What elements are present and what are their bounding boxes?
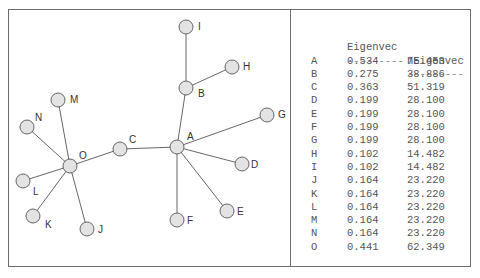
row-node: M (311, 214, 317, 227)
node-label-I: I (198, 21, 201, 32)
node-D (235, 157, 249, 171)
row-node: E (311, 108, 317, 121)
row-eigenvec: 0.199 (347, 134, 379, 147)
row-node: C (311, 81, 317, 94)
node-label-K: K (45, 219, 52, 230)
row-eigenvec: 0.441 (347, 241, 379, 254)
row-neigenvec: 28.100 (407, 108, 445, 121)
panel-divider (290, 9, 291, 267)
node-label-N: N (35, 112, 42, 123)
row-node: N (311, 227, 317, 240)
node-A (170, 140, 184, 154)
table-row: F0.19928.100 (300, 121, 325, 134)
row-neigenvec: 62.349 (407, 241, 445, 254)
node-F (170, 213, 184, 227)
edge-A-D (177, 147, 242, 164)
table-row: L0.16423.220 (300, 201, 325, 214)
node-I (179, 20, 193, 34)
node-label-L: L (33, 186, 39, 197)
row-neigenvec: 23.220 (407, 174, 445, 187)
row-neigenvec: 28.100 (407, 121, 445, 134)
row-node: F (311, 121, 317, 134)
edge-O-J (70, 166, 87, 229)
row-node: J (311, 174, 317, 187)
node-label-D: D (251, 159, 258, 170)
network-graph: ABCDEFGHIJKLMNO (0, 0, 290, 278)
table-row: C0.36351.319 (300, 81, 325, 94)
row-eigenvec: 0.164 (347, 227, 379, 240)
table-body: A0.53475.453B0.27538.886C0.36351.319D0.1… (300, 55, 325, 254)
row-neigenvec: 28.100 (407, 94, 445, 107)
table-row: O0.44162.349 (300, 241, 325, 254)
node-label-E: E (237, 206, 244, 217)
table-row: I0.10214.482 (300, 161, 325, 174)
node-label-F: F (187, 215, 193, 226)
row-node: H (311, 148, 317, 161)
table-row: J0.16423.220 (300, 174, 325, 187)
node-label-M: M (70, 94, 78, 105)
node-B (179, 81, 193, 95)
row-eigenvec: 0.363 (347, 81, 379, 94)
row-neigenvec: 23.220 (407, 227, 445, 240)
edge-C-O (70, 149, 120, 166)
edge-B-H (186, 67, 232, 88)
edge-A-B (177, 88, 186, 147)
row-eigenvec: 0.102 (347, 161, 379, 174)
table-row: H0.10214.482 (300, 148, 325, 161)
node-label-J: J (98, 224, 103, 235)
table-row: E0.19928.100 (300, 108, 325, 121)
eigenvector-table: Eigenvec nEigenvec --------- --------- A… (300, 28, 325, 254)
row-neigenvec: 23.220 (407, 201, 445, 214)
node-label-B: B (198, 88, 205, 99)
table-row: K0.16423.220 (300, 188, 325, 201)
node-K (26, 209, 40, 223)
row-eigenvec: 0.164 (347, 201, 379, 214)
row-neigenvec: 23.220 (407, 188, 445, 201)
row-eigenvec: 0.199 (347, 108, 379, 121)
edge-A-C (120, 147, 177, 149)
row-node: A (311, 55, 317, 68)
row-node: G (311, 134, 317, 147)
node-label-G: G (278, 109, 286, 120)
row-eigenvec: 0.164 (347, 188, 379, 201)
row-eigenvec: 0.199 (347, 121, 379, 134)
table-row: G0.19928.100 (300, 134, 325, 147)
row-node: D (311, 94, 317, 107)
node-label-H: H (243, 61, 250, 72)
row-node: O (311, 241, 317, 254)
node-N (20, 120, 34, 134)
row-neigenvec: 14.482 (407, 161, 445, 174)
row-eigenvec: 0.534 (347, 55, 379, 68)
row-neigenvec: 23.220 (407, 214, 445, 227)
edge-A-E (177, 147, 227, 211)
row-neigenvec: 28.100 (407, 134, 445, 147)
node-E (220, 204, 234, 218)
node-G (260, 108, 274, 122)
row-eigenvec: 0.275 (347, 68, 379, 81)
node-label-O: O (79, 150, 87, 161)
node-O (63, 159, 77, 173)
row-eigenvec: 0.199 (347, 94, 379, 107)
row-neigenvec: 14.482 (407, 148, 445, 161)
table-row: D0.19928.100 (300, 94, 325, 107)
table-row: B0.27538.886 (300, 68, 325, 81)
row-eigenvec: 0.164 (347, 174, 379, 187)
table-row: N0.16423.220 (300, 227, 325, 240)
table-row: M0.16423.220 (300, 214, 325, 227)
header-eigenvec: Eigenvec (347, 41, 397, 54)
node-label-C: C (129, 134, 136, 145)
edge-O-M (58, 100, 70, 166)
row-neigenvec: 75.453 (407, 55, 445, 68)
node-label-A: A (187, 131, 194, 142)
row-neigenvec: 38.886 (407, 68, 445, 81)
row-node: I (311, 161, 317, 174)
row-eigenvec: 0.164 (347, 214, 379, 227)
row-eigenvec: 0.102 (347, 148, 379, 161)
row-neigenvec: 51.319 (407, 81, 445, 94)
node-C (113, 142, 127, 156)
node-H (225, 60, 239, 74)
graph-edges (23, 27, 267, 229)
row-node: B (311, 68, 317, 81)
table-header: Eigenvec nEigenvec (300, 28, 325, 41)
table-row: A0.53475.453 (300, 55, 325, 68)
